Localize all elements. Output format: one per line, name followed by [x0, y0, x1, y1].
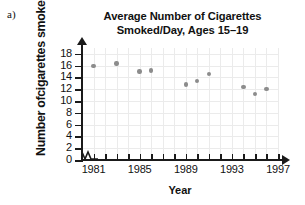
- axis-break-icon: [82, 150, 98, 162]
- x-axis-tick-label: 1989: [166, 163, 206, 175]
- data-point: [207, 72, 211, 76]
- y-axis-tick: [75, 89, 82, 91]
- y-axis-tick: [75, 101, 82, 103]
- x-axis-tick: [186, 154, 188, 160]
- y-axis-tick-label: 14: [60, 70, 72, 82]
- grid-line-horizontal: [82, 113, 278, 114]
- chart-title-line-1: Average Number of Cigarettes: [70, 10, 295, 24]
- y-axis-tick: [75, 54, 82, 56]
- y-axis-tick-label: 16: [60, 59, 72, 71]
- x-axis-tick: [140, 154, 142, 160]
- y-axis-tick: [75, 66, 82, 68]
- data-point: [184, 82, 188, 86]
- y-axis-arrow-icon: [77, 37, 87, 45]
- figure-panel: a) Average Number of Cigarettes Smoked/D…: [0, 0, 305, 205]
- y-axis-line: [81, 44, 83, 162]
- y-axis-tick: [75, 136, 82, 138]
- data-point: [137, 69, 141, 73]
- y-axis-tick: [75, 160, 82, 162]
- data-point: [241, 85, 245, 89]
- grid-line-vertical: [278, 48, 279, 160]
- y-axis-tick-label: 18: [60, 47, 72, 59]
- x-axis-tick: [232, 154, 234, 160]
- x-axis-tick-label: 1981: [74, 163, 114, 175]
- x-axis-tick: [197, 154, 199, 160]
- x-axis-tick: [117, 154, 119, 160]
- y-axis-tick-label: 4: [66, 129, 72, 141]
- x-axis-tick: [128, 154, 130, 160]
- x-axis-tick-label: 1997: [258, 163, 298, 175]
- x-axis-tick-label: 1985: [120, 163, 160, 175]
- x-axis-tick: [151, 154, 153, 160]
- y-axis-tick: [75, 125, 82, 127]
- y-axis-tick-label: 8: [66, 106, 72, 118]
- grid-line-horizontal: [82, 136, 278, 137]
- y-axis-tick-label: 0: [66, 153, 72, 165]
- grid-line-horizontal: [82, 66, 278, 67]
- grid-line-horizontal: [82, 77, 278, 78]
- y-axis-tick-label: 6: [66, 118, 72, 130]
- y-axis-tick: [75, 77, 82, 79]
- grid-line-horizontal: [82, 125, 278, 126]
- grid-line-horizontal: [82, 148, 278, 149]
- y-axis-label-wrapper: Number ofcigarettes smoked/day: [31, 0, 51, 156]
- data-point: [114, 61, 118, 65]
- plot-area: [82, 48, 278, 160]
- grid-line-horizontal: [82, 101, 278, 102]
- y-axis-tick: [75, 113, 82, 115]
- x-axis-tick: [255, 154, 257, 160]
- x-axis-tick: [209, 154, 211, 160]
- x-axis-line: [82, 159, 283, 161]
- x-axis-tick: [163, 154, 165, 160]
- data-point: [149, 68, 153, 72]
- x-axis-label: Year: [70, 184, 290, 196]
- chart-title-line-2: Smoked/Day, Ages 15–19: [70, 24, 295, 38]
- y-axis-tick-label: 12: [60, 82, 72, 94]
- x-axis-tick: [266, 154, 268, 160]
- grid-line-horizontal: [82, 54, 278, 55]
- y-axis-tick: [75, 148, 82, 150]
- chart-title: Average Number of Cigarettes Smoked/Day,…: [70, 10, 295, 37]
- y-axis-tick-label: 2: [66, 141, 72, 153]
- y-axis-tick-label: 10: [60, 94, 72, 106]
- x-axis-tick: [220, 154, 222, 160]
- grid-line-horizontal: [82, 89, 278, 90]
- item-label: a): [7, 8, 16, 20]
- x-axis-tick: [94, 154, 96, 160]
- x-axis-tick: [243, 154, 245, 160]
- x-axis-tick: [174, 154, 176, 160]
- x-axis-tick: [278, 154, 280, 160]
- x-axis-tick-label: 1993: [212, 163, 252, 175]
- y-axis-label: Number ofcigarettes smoked/day: [34, 0, 48, 156]
- x-axis-tick: [105, 154, 107, 160]
